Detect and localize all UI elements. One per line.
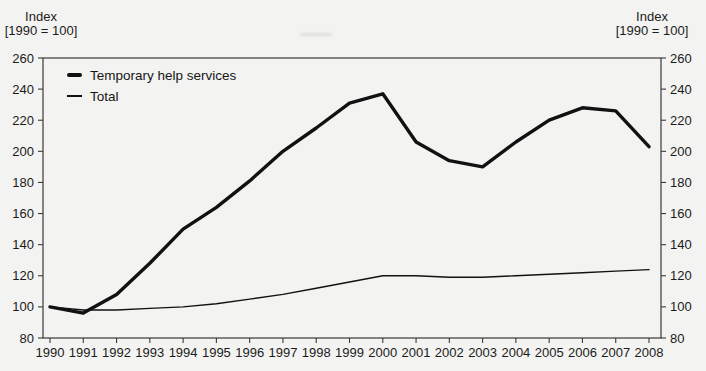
x-axis-tick-label: 2008 — [635, 345, 664, 360]
x-axis-tick-label: 2003 — [468, 345, 497, 360]
left-axis-unit-label: Index [1990 = 100] — [2, 10, 80, 37]
series-line-total — [50, 270, 649, 310]
y-axis-tick-label-right: 140 — [670, 237, 692, 252]
y-axis-tick-label-left: 240 — [12, 82, 34, 97]
y-axis-tick-label-right: 80 — [670, 331, 684, 346]
legend-item-temporary-help-services: Temporary help services — [67, 68, 236, 82]
y-axis-tick-label-right: 200 — [670, 144, 692, 159]
y-axis-tick-label-right: 120 — [670, 268, 692, 283]
y-axis-tick-label-left: 220 — [12, 113, 34, 128]
y-axis-tick-label-right: 100 — [670, 299, 692, 314]
thin-line-swatch-icon — [67, 95, 82, 97]
thick-line-swatch-icon — [67, 73, 82, 77]
scan-artifact — [300, 33, 332, 36]
chart-figure: 8080100100120120140140160160180180200200… — [0, 0, 706, 371]
x-axis-tick-label: 2004 — [501, 345, 530, 360]
x-axis-tick-label: 1990 — [36, 345, 65, 360]
x-axis-tick-label: 2000 — [368, 345, 397, 360]
y-axis-tick-label-right: 180 — [670, 175, 692, 190]
x-axis-tick-label: 1994 — [169, 345, 198, 360]
x-axis-tick-label: 2006 — [568, 345, 597, 360]
x-axis-tick-label: 1996 — [235, 345, 264, 360]
y-axis-tick-label-left: 140 — [12, 237, 34, 252]
y-axis-tick-label-left: 180 — [12, 175, 34, 190]
y-axis-tick-label-left: 100 — [12, 299, 34, 314]
y-axis-tick-label-right: 160 — [670, 206, 692, 221]
legend: Temporary help services Total — [67, 68, 236, 110]
x-axis-tick-label: 1992 — [102, 345, 131, 360]
series-line-temporary-help-services — [50, 94, 649, 313]
y-axis-tick-label-left: 260 — [12, 51, 34, 66]
y-axis-tick-label-left: 120 — [12, 268, 34, 283]
legend-item-total: Total — [67, 89, 236, 103]
y-axis-tick-label-left: 160 — [12, 206, 34, 221]
x-axis-tick-label: 1999 — [335, 345, 364, 360]
right-axis-unit-label: Index [1990 = 100] — [608, 10, 696, 37]
legend-label-total: Total — [90, 89, 119, 104]
x-axis-tick-label: 2002 — [435, 345, 464, 360]
x-axis-tick-label: 2007 — [601, 345, 630, 360]
line-chart-canvas: 8080100100120120140140160160180180200200… — [0, 0, 706, 371]
left-axis-unit-line2: [1990 = 100] — [2, 24, 80, 38]
right-axis-unit-line1: Index — [608, 10, 696, 24]
x-axis-tick-label: 1998 — [302, 345, 331, 360]
legend-label-temporary-help-services: Temporary help services — [90, 68, 236, 83]
x-axis-tick-label: 1993 — [135, 345, 164, 360]
x-axis-tick-label: 2001 — [402, 345, 431, 360]
x-axis-tick-label: 1991 — [69, 345, 98, 360]
y-axis-tick-label-right: 220 — [670, 113, 692, 128]
y-axis-tick-label-right: 240 — [670, 82, 692, 97]
y-axis-tick-label-left: 200 — [12, 144, 34, 159]
x-axis-tick-label: 1995 — [202, 345, 231, 360]
x-axis-tick-label: 1997 — [268, 345, 297, 360]
x-axis-tick-label: 2005 — [535, 345, 564, 360]
y-axis-tick-label-right: 260 — [670, 51, 692, 66]
y-axis-tick-label-left: 80 — [20, 331, 34, 346]
right-axis-unit-line2: [1990 = 100] — [608, 24, 696, 38]
left-axis-unit-line1: Index — [2, 10, 80, 24]
